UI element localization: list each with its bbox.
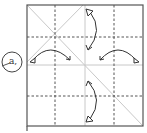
left-fold-arrow-icon xyxy=(30,50,70,63)
bottom-fold-arrow-icon xyxy=(86,81,97,122)
right-fold-arrow-icon xyxy=(100,50,139,63)
step-label-text: a, xyxy=(9,56,17,66)
crease-lines xyxy=(27,5,143,126)
top-fold-arrow-icon xyxy=(86,9,97,50)
step-label: a, xyxy=(2,52,22,72)
fold-diagram: a, xyxy=(0,0,147,133)
